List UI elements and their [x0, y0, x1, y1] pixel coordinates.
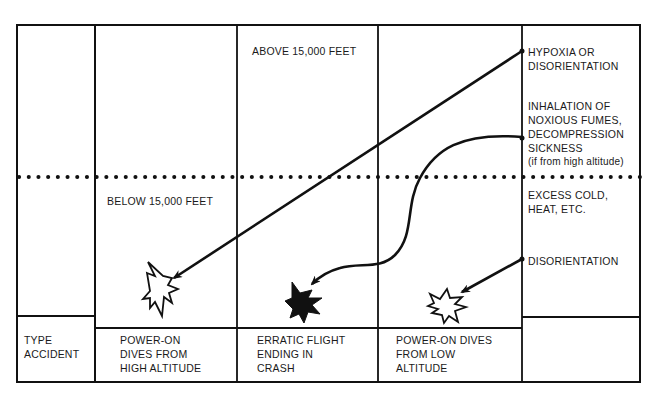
crash-burst-icon [143, 262, 178, 316]
crash-burst-icon [428, 289, 466, 323]
arrow-disorientation [462, 259, 522, 292]
arrow-fumes [312, 136, 522, 284]
accident-label-low-altitude: POWER-ON DIVES FROM LOW ALTITUDE [396, 333, 492, 375]
arrow-origin-dot [520, 49, 525, 54]
arrow-origin-dot [520, 136, 525, 141]
zone-label-above: ABOVE 15,000 FEET [252, 44, 356, 58]
cause-label-fumes: INHALATION OF NOXIOUS FUMES, DECOMPRESSI… [528, 99, 624, 155]
cause-label-disorientation: DISORIENTATION [528, 254, 619, 268]
cause-note-fumes: (if from high altitude) [528, 155, 624, 169]
arrow-origin-dot [520, 257, 525, 262]
type-accident-label: TYPE ACCIDENT [24, 333, 79, 361]
cause-label-hypoxia: HYPOXIA OR DISORIENTATION [528, 45, 619, 73]
zone-label-below: BELOW 15,000 FEET [107, 194, 213, 208]
arrow-hypoxia [174, 51, 522, 278]
crash-burst-filled-icon [285, 282, 322, 323]
cause-label-cold: EXCESS COLD, HEAT, ETC. [528, 188, 608, 216]
accident-label-erratic: ERRATIC FLIGHT ENDING IN CRASH [257, 333, 345, 375]
accident-label-high-altitude: POWER-ON DIVES FROM HIGH ALTITUDE [120, 333, 201, 375]
